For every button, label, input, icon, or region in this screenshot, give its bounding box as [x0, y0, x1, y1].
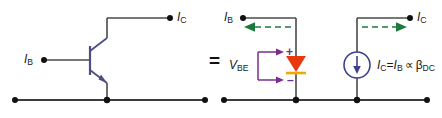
right-diode-node	[293, 97, 299, 103]
right-base-terminal	[240, 15, 246, 21]
vbe-minus-arrowhead	[276, 77, 284, 84]
vbe-plus-arrowhead	[276, 49, 284, 56]
equation-equals: =	[387, 58, 394, 72]
right-source-node	[354, 97, 360, 103]
left-rail-terminal-start	[12, 97, 18, 103]
right-rail-terminal-start	[221, 97, 227, 103]
beta-equation-label: IC=IB∝βDC	[377, 59, 435, 73]
right-collector-current-label: IC	[417, 11, 427, 25]
equation-operator: ∝	[403, 58, 416, 72]
vbe-plus-sign: +	[286, 46, 293, 58]
equation-beta: β	[416, 58, 423, 72]
left-rail-terminal-end	[202, 97, 208, 103]
circuit-schematic-svg	[0, 0, 442, 118]
transistor-emitter-arrowhead	[99, 75, 108, 84]
vbe-voltage-label: VBE	[229, 59, 249, 73]
left-base-current-label: IB	[24, 53, 33, 67]
left-collector-terminal	[167, 15, 173, 21]
right-base-current-label: IB	[224, 11, 233, 25]
base-current-arrowhead	[244, 22, 255, 32]
circuit-figure: IB IC = IB IC VBE + – IC=IB∝βDC	[0, 0, 442, 118]
right-collector-terminal	[407, 15, 413, 21]
left-collector-current-label: IC	[177, 11, 187, 25]
collector-current-arrowhead	[396, 22, 407, 32]
left-base-terminal	[41, 57, 47, 63]
vbe-minus-sign: –	[287, 74, 294, 86]
equals-sign: =	[209, 51, 220, 70]
right-rail-terminal-end	[424, 97, 430, 103]
left-emitter-node	[104, 97, 110, 103]
transistor-collector-lead	[90, 38, 107, 51]
